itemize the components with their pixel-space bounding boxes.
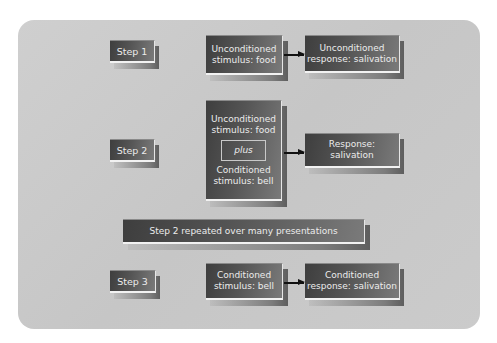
step-1-stimulus-line1: Unconditioned [211,44,276,55]
step-1-response-line2: response: salivation [307,54,397,65]
step-3-response-line1: Conditioned [325,270,379,281]
step-1-response-line1: Unconditioned [319,43,384,54]
arrow-icon [284,152,304,154]
step-3-text: Step 3 [117,276,148,287]
step-2-label: Step 2 [110,139,155,162]
step-1-text: Step 1 [117,46,148,57]
step-3-stimulus-box: Conditioned stimulus: bell [206,263,283,300]
plus-box: plus [221,140,266,161]
step-1-stimulus-line2: stimulus: food [212,55,276,66]
step-2-cs-line2: stimulus: bell [213,176,273,187]
step-2-text: Step 2 [117,145,148,156]
step-1-stimulus-box: Unconditioned stimulus: food [206,35,283,75]
step-2-response-line2: salivation [330,150,373,161]
step-2-stimulus-box: Unconditioned stimulus: food plus Condit… [206,100,282,201]
step-3-response-box: Conditioned response: salivation [305,263,400,300]
step-3-stimulus-line1: Conditioned [217,270,271,281]
step-2-us-line1: Unconditioned [211,114,276,125]
repeat-banner-text: Step 2 repeated over many presentations [149,226,337,237]
step-3-stimulus-line2: stimulus: bell [214,281,274,292]
arrow-icon [284,282,304,284]
step-2-us-line2: stimulus: food [212,125,276,136]
step-2-response-box: Response: salivation [305,133,400,168]
repeat-banner: Step 2 repeated over many presentations [123,219,365,244]
step-1-label: Step 1 [110,40,155,63]
arrow-icon [284,54,304,56]
step-3-response-line2: response: salivation [307,281,397,292]
step-2-response-line1: Response: [329,139,375,150]
step-1-response-box: Unconditioned response: salivation [305,35,400,73]
step-2-cs-line1: Conditioned [216,165,270,176]
step-3-label: Step 3 [110,270,156,293]
